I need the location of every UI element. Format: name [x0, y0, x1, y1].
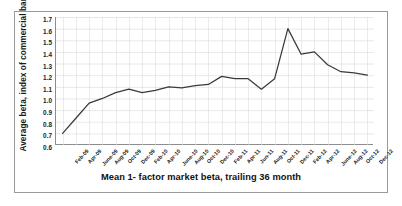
x-tick-label: Feb-09	[73, 148, 89, 165]
y-tick-label: 0.7	[43, 133, 52, 139]
y-tick-label: 1.6	[43, 29, 52, 35]
plot-area	[55, 17, 373, 145]
x-tick-label: Dec-10	[219, 148, 235, 165]
y-tick-label: 0.9	[43, 110, 52, 116]
y-tick-label: 0.8	[43, 122, 52, 128]
y-tick-label: 1.4	[43, 52, 52, 58]
x-tick-label: Dec-11	[298, 148, 314, 165]
chart-title: Mean 1- factor market beta, trailing 36 …	[14, 172, 388, 182]
y-tick-label: 0.6	[43, 145, 52, 151]
y-axis-tick-labels: 1.71.61.51.41.31.21.11.00.90.80.70.6	[34, 14, 52, 145]
x-tick-label: Feb-11	[232, 148, 248, 165]
chart-figure: Average beta, index of commercial banks …	[0, 0, 402, 206]
data-series-line	[63, 29, 368, 134]
y-tick-label: 1.7	[43, 17, 52, 23]
x-tick-label: Aug-11	[272, 148, 289, 165]
y-tick-label: 1.1	[43, 87, 52, 93]
y-tick-label: 1.5	[43, 40, 52, 46]
series-line-svg	[56, 17, 374, 145]
y-tick-label: 1.2	[43, 75, 52, 81]
y-axis-title: Average beta, index of commercial banks	[19, 2, 28, 152]
y-tick-label: 1.0	[43, 98, 52, 104]
y-tick-label: 1.3	[43, 64, 52, 70]
